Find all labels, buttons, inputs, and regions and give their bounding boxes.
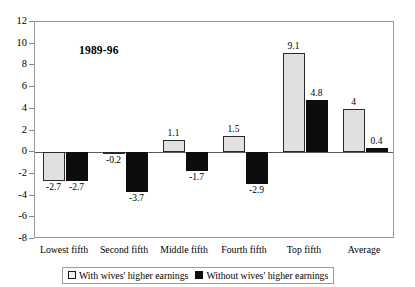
y-tick-label: 12 <box>17 16 28 27</box>
y-tick-label: 0 <box>22 146 27 157</box>
legend-label: Without wives' higher earnings <box>206 271 328 281</box>
y-tick-label: -6 <box>18 211 27 222</box>
x-tick-label: Average <box>348 245 380 255</box>
legend-swatch-dark-icon <box>195 271 203 279</box>
chart-legend: With wives' higher earningsWithout wives… <box>62 267 334 284</box>
bar <box>66 152 88 181</box>
y-tick-label: -8 <box>18 233 27 244</box>
bar <box>103 152 125 154</box>
bar-value-label: -3.7 <box>118 194 156 204</box>
y-tick-label: 10 <box>17 37 28 48</box>
bar-value-label: 1.1 <box>155 129 193 139</box>
x-tick-label: Middle fifth <box>160 245 208 255</box>
y-tick-label: 4 <box>22 103 27 114</box>
y-tick-label: 8 <box>22 59 27 70</box>
bar <box>246 152 268 183</box>
bar-value-label: 0.4 <box>358 137 396 147</box>
y-tick-label: -2 <box>18 168 27 179</box>
x-tick-label: Second fifth <box>100 245 148 255</box>
bar <box>366 148 388 152</box>
x-tick-label: Fourth fifth <box>221 245 266 255</box>
y-tick-label: -4 <box>18 189 27 200</box>
bar-value-label: -1.7 <box>178 173 216 183</box>
legend-swatch-light-icon <box>68 271 76 279</box>
bar <box>283 53 305 152</box>
bar <box>186 152 208 170</box>
bar-value-label: 4 <box>335 98 373 108</box>
bar-value-label: 1.5 <box>215 125 253 135</box>
x-tick-label: Lowest fifth <box>40 245 88 255</box>
bar-value-label: 4.8 <box>298 89 336 99</box>
bar-value-label: -2.9 <box>238 186 276 196</box>
bar <box>223 136 245 152</box>
zero-baseline <box>35 152 393 153</box>
bar-chart: 121086420-2-4-6-8 1989-96 -2.7-2.7-0.2-3… <box>0 0 415 287</box>
x-tick-label: Top fifth <box>287 245 321 255</box>
y-tick-mark <box>29 238 34 239</box>
legend-item: With wives' higher earnings <box>68 271 188 281</box>
plot-area: 1989-96 -2.7-2.7-0.2-3.71.1-1.71.5-2.99.… <box>34 21 394 238</box>
bar <box>43 152 65 181</box>
bar <box>163 140 185 152</box>
legend-label: With wives' higher earnings <box>79 271 188 281</box>
chart-title: 1989-96 <box>79 44 119 56</box>
bar-value-label: 9.1 <box>275 42 313 52</box>
bar <box>126 152 148 192</box>
bar <box>306 100 328 152</box>
y-tick-label: 6 <box>22 81 27 92</box>
y-tick-label: 2 <box>22 124 27 135</box>
y-axis: 121086420-2-4-6-8 <box>0 0 34 287</box>
bar-value-label: -2.7 <box>58 183 96 193</box>
legend-item: Without wives' higher earnings <box>195 271 328 281</box>
